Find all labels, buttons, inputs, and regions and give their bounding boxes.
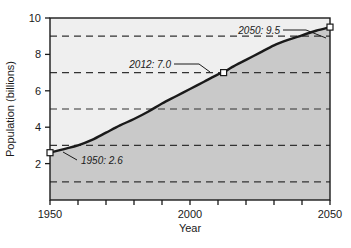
x-tick-label-1950: 1950 [38,208,62,220]
y-tick-label-4: 4 [35,121,41,133]
y-axis-title: Population (billions) [4,61,16,157]
annotation-1950: 1950: 2.6 [81,155,123,166]
x-tick-label-2000: 2000 [178,208,202,220]
x-axis-tick-group [50,200,330,205]
y-axis-tick-group [45,18,50,164]
x-axis-tick-label-group: 195020002050 [38,208,342,220]
marker-2012 [221,70,227,76]
y-tick-label-10: 10 [29,12,41,24]
y-tick-label-2: 2 [35,158,41,170]
x-axis-title: Year [179,222,202,234]
x-tick-label-2050: 2050 [318,208,342,220]
population-growth-chart: 246810 195020002050 1950: 2.6 2012: 7.0 … [0,0,351,248]
y-tick-label-6: 6 [35,85,41,97]
annotation-2050: 2050: 9.5 [237,25,280,36]
marker-2050 [327,24,333,30]
y-tick-label-8: 8 [35,48,41,60]
marker-1950 [47,150,53,156]
annotation-2012: 2012: 7.0 [128,59,171,70]
y-axis-tick-label-group: 246810 [29,12,41,170]
chart-canvas: 246810 195020002050 1950: 2.6 2012: 7.0 … [0,0,351,248]
